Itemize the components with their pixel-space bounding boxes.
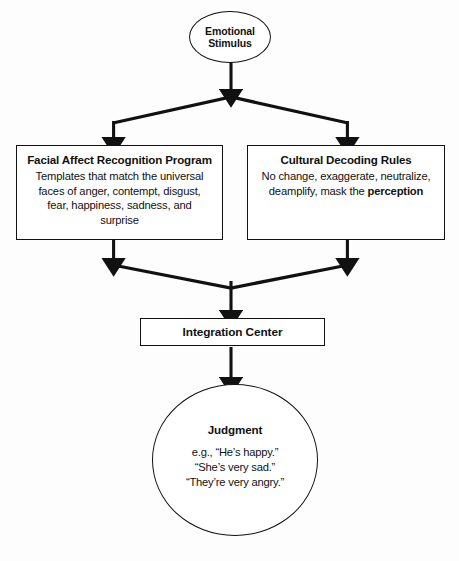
node-emotional-stimulus: Emotional Stimulus [189, 11, 271, 63]
node-judgment-examples: e.g., “He’s happy.” “She’s very sad.” “T… [186, 445, 284, 490]
node-cultural-decoding-title: Cultural Decoding Rules [280, 153, 411, 167]
node-cultural-decoding-rules: Cultural Decoding Rules No change, exagg… [247, 145, 445, 240]
node-cultural-decoding-body: No change, exaggerate, neutralize, deamp… [254, 169, 438, 198]
node-facial-affect-title: Facial Affect Recognition Program [27, 153, 212, 167]
node-judgment-example-2: “She’s very sad.” [186, 460, 284, 475]
node-integration-center-title: Integration Center [183, 325, 283, 339]
node-facial-affect-body: Templates that match the universal faces… [23, 169, 216, 227]
node-cultural-decoding-body-emphasis: perception [368, 185, 424, 197]
node-facial-affect-recognition-program: Facial Affect Recognition Program Templa… [16, 145, 223, 240]
connector-split-chevron [113, 97, 348, 123]
node-emotional-stimulus-title: Emotional Stimulus [205, 25, 255, 50]
node-judgment: Judgment e.g., “He’s happy.” “She’s very… [152, 384, 318, 536]
node-judgment-title: Judgment [208, 423, 263, 436]
node-judgment-example-1: e.g., “He’s happy.” [186, 445, 284, 460]
flowchart-diagram: Emotional Stimulus Facial Affect Recogni… [0, 0, 459, 561]
node-emotional-stimulus-line2: Stimulus [205, 37, 255, 50]
node-judgment-example-3: “They’re very angry.” [186, 475, 284, 490]
node-emotional-stimulus-line1: Emotional [205, 25, 255, 38]
node-integration-center: Integration Center [140, 318, 325, 346]
